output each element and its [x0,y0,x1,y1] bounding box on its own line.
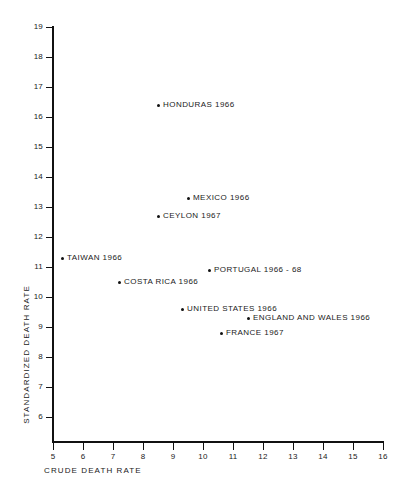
y-tick-label: 18 [27,52,43,61]
x-tick-mark [203,443,204,450]
x-tick-mark [53,443,54,450]
y-tick-mark [46,297,53,298]
y-tick-mark [46,207,53,208]
x-tick-mark [143,443,144,450]
y-tick-mark [46,57,53,58]
x-axis-title: CRUDE DEATH RATE [44,466,142,475]
x-tick-mark [113,443,114,450]
data-point-label: PORTUGAL 1966 - 68 [214,265,302,274]
x-tick-label: 9 [165,452,181,461]
x-tick-label: 14 [315,452,331,461]
data-point-label: COSTA RICA 1966 [124,277,198,286]
x-tick-label: 16 [375,452,391,461]
y-tick-mark [46,267,53,268]
y-tick-label: 16 [27,112,43,121]
data-point-marker [208,269,211,272]
x-tick-label: 13 [285,452,301,461]
scatter-plot-figure: 678910111213141516171819 567891011121314… [0,0,413,494]
data-point-marker [220,332,223,335]
data-point-marker [247,317,250,320]
data-point-label: CEYLON 1967 [163,211,221,220]
x-tick-mark [263,443,264,450]
data-point-label: TAIWAN 1966 [67,253,122,262]
y-tick-label: 13 [27,202,43,211]
y-tick-label: 12 [27,232,43,241]
data-point-marker [181,308,184,311]
plot-area: 678910111213141516171819 567891011121314… [0,0,413,494]
x-tick-mark [173,443,174,450]
data-point-label: MEXICO 1966 [193,193,250,202]
y-tick-mark [46,417,53,418]
data-point-label: FRANCE 1967 [226,328,284,337]
x-tick-mark [383,443,384,450]
x-tick-mark [323,443,324,450]
x-tick-label: 7 [105,452,121,461]
y-tick-mark [46,177,53,178]
x-tick-label: 8 [135,452,151,461]
data-point-label: ENGLAND AND WALES 1966 [253,313,370,322]
x-axis-line [52,441,384,443]
x-tick-mark [233,443,234,450]
y-tick-mark [46,117,53,118]
y-tick-mark [46,387,53,388]
x-tick-label: 12 [255,452,271,461]
x-tick-mark [293,443,294,450]
data-point-marker [157,104,160,107]
y-tick-mark [46,327,53,328]
y-tick-mark [46,27,53,28]
y-axis-line [52,26,54,443]
data-point-marker [118,281,121,284]
x-tick-label: 6 [75,452,91,461]
y-tick-mark [46,87,53,88]
y-tick-label: 14 [27,172,43,181]
data-point-label: UNITED STATES 1966 [187,304,277,313]
y-tick-label: 19 [27,22,43,31]
y-axis-title: STANDARDIZED DEATH RATE [22,265,31,445]
x-tick-mark [353,443,354,450]
x-tick-label: 15 [345,452,361,461]
x-tick-label: 5 [45,452,61,461]
y-tick-mark [46,147,53,148]
x-tick-label: 11 [225,452,241,461]
y-tick-label: 15 [27,142,43,151]
y-tick-label: 17 [27,82,43,91]
x-tick-mark [83,443,84,450]
x-tick-label: 10 [195,452,211,461]
y-tick-mark [46,357,53,358]
data-point-marker [187,197,190,200]
data-point-marker [61,257,64,260]
y-tick-mark [46,237,53,238]
data-point-marker [157,215,160,218]
data-point-label: HONDURAS 1966 [163,100,235,109]
